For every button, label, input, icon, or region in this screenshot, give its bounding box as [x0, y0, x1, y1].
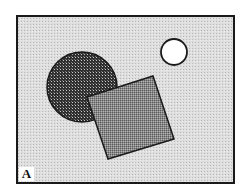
figure-canvas [0, 0, 249, 194]
small-white-circle [161, 39, 187, 65]
panel-label: A [19, 167, 34, 181]
